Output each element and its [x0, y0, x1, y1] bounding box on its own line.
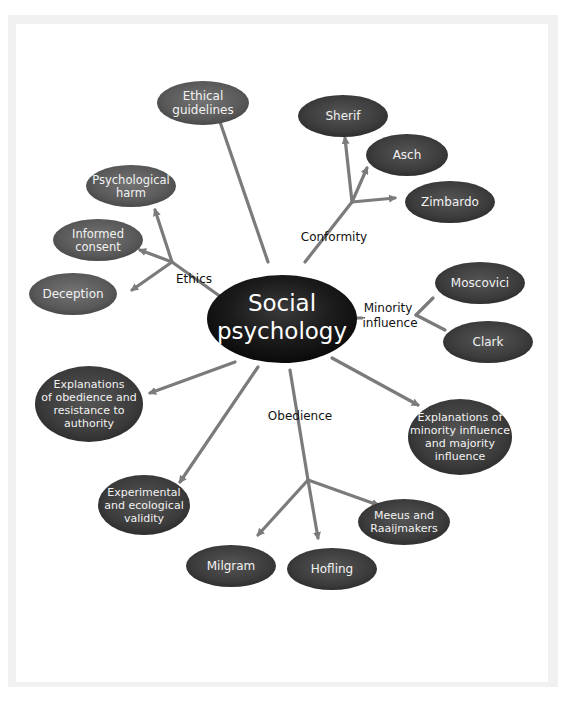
branch-label: influence: [362, 316, 417, 330]
node-label: Deception: [42, 287, 103, 301]
line-obedience: [290, 370, 308, 480]
node-label: Experimental: [107, 486, 180, 499]
node-label: Clark: [473, 335, 504, 349]
node-label: Zimbardo: [421, 195, 479, 209]
node-label: Hofling: [311, 562, 353, 576]
node-explanations-minority[interactable]: Explanations ofminority influenceand maj…: [408, 399, 512, 475]
arrow-explanations-minority: [332, 358, 418, 405]
node-label: authority: [64, 417, 115, 430]
arrow-deception: [132, 262, 172, 290]
branch-label: Minority: [364, 301, 413, 315]
node-label: Ethical: [183, 89, 224, 103]
node-label: and ecological: [104, 499, 183, 512]
node-ethical-guidelines[interactable]: Ethicalguidelines: [157, 81, 249, 125]
node-label: Moscovici: [451, 276, 509, 290]
node-zimbardo[interactable]: Zimbardo: [405, 181, 495, 223]
node-label: Asch: [393, 148, 422, 162]
arrow-psychological-harm: [155, 210, 172, 262]
node-label: Milgram: [207, 559, 256, 573]
arrow-ethical-guidelines: [218, 116, 268, 262]
node-label: harm: [116, 186, 146, 200]
node-meeus[interactable]: Meeus andRaaijmakers: [358, 499, 450, 545]
arrow-zimbardo: [352, 198, 395, 202]
node-psychological-harm[interactable]: Psychologicalharm: [86, 165, 176, 207]
node-layer: EthicalguidelinesPsychologicalharmInform…: [29, 81, 533, 590]
node-label: and majority: [425, 437, 495, 450]
node-label: resistance to: [54, 404, 125, 417]
node-hofling[interactable]: Hofling: [287, 548, 377, 590]
node-label: minority influence: [410, 424, 510, 437]
node-label: consent: [75, 240, 121, 254]
branch-label: Ethics: [176, 272, 212, 286]
node-label: of obedience and: [41, 391, 136, 404]
center-node-social-psychology[interactable]: Socialpsychology: [207, 275, 357, 363]
node-label: validity: [124, 512, 165, 525]
center-label: psychology: [217, 318, 347, 344]
node-label: Informed: [72, 227, 124, 241]
node-label: Meeus and: [374, 509, 434, 522]
node-informed-consent[interactable]: Informedconsent: [53, 219, 143, 261]
arrow-moscovici: [416, 298, 433, 315]
arrow-explanations-obedience: [150, 362, 235, 393]
node-label: influence: [435, 450, 486, 463]
node-label: Explanations: [54, 378, 125, 391]
arrow-asch: [352, 168, 367, 202]
branch-label: Obedience: [268, 409, 332, 423]
arrow-milgram: [258, 480, 308, 535]
node-clark[interactable]: Clark: [443, 321, 533, 363]
arrow-hofling: [308, 480, 318, 538]
node-label: Psychological: [92, 173, 169, 187]
arrow-meeus: [308, 480, 378, 505]
node-moscovici[interactable]: Moscovici: [435, 262, 525, 304]
node-label: Explanations of: [418, 411, 504, 424]
arrow-sherif: [345, 138, 352, 202]
node-deception[interactable]: Deception: [29, 273, 117, 315]
mind-map: EthicalguidelinesPsychologicalharmInform…: [0, 0, 565, 707]
node-asch[interactable]: Asch: [366, 134, 448, 176]
node-explanations-obedience[interactable]: Explanationsof obedience andresistance t…: [35, 366, 143, 442]
center-label: Social: [248, 290, 316, 316]
node-label: Sherif: [325, 109, 361, 123]
arrow-clark: [416, 315, 445, 330]
node-experimental-validity[interactable]: Experimentaland ecologicalvalidity: [98, 475, 190, 535]
branch-label: Conformity: [301, 230, 367, 244]
node-label: guidelines: [172, 103, 233, 117]
arrow-experimental-validity: [180, 367, 258, 482]
node-sherif[interactable]: Sherif: [298, 95, 388, 137]
node-label: Raaijmakers: [370, 522, 438, 535]
node-milgram[interactable]: Milgram: [186, 545, 276, 587]
